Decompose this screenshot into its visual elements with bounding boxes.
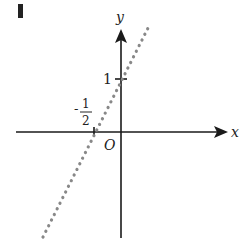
- x-axis-label: x: [231, 124, 239, 140]
- x-tick-label-sign: -: [74, 101, 78, 116]
- x-tick-label-numerator: 1: [82, 97, 90, 111]
- x-tick-label-denominator: 2: [82, 114, 90, 128]
- coordinate-diagram: x y 1 - 1 2 O: [0, 0, 241, 240]
- y-tick-label: 1: [103, 71, 112, 87]
- origin-label: O: [104, 137, 116, 153]
- y-axis-label: y: [115, 9, 125, 25]
- panel-label-mark: [18, 4, 23, 18]
